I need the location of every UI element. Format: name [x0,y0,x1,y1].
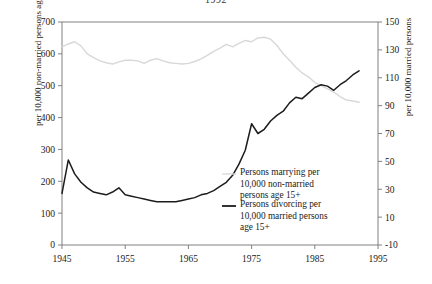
series-line-divorcing [62,71,359,202]
x-axis-tick-label: 1945 [53,254,72,264]
y-axis-right-tick-label: 130 [385,45,400,55]
legend-label-line: 10,000 married persons [240,211,328,221]
legend-label-line: Persons marrying per [240,167,320,177]
y-axis-left-tick-label: 0 [50,240,55,250]
y-axis-right-tick-label: 70 [385,129,395,139]
y-axis-right-tick-label: -10 [385,240,398,250]
y-axis-right-tick-label: 150 [385,17,400,27]
y-axis-left-tick-label: 300 [41,145,56,155]
chart-plot-svg: 0100200300400500600700-10103050709011013… [0,0,432,284]
chart-legend: Persons marrying per10,000 non-marriedpe… [222,167,328,232]
y-axis-right-tick-label: 30 [385,185,395,195]
y-axis-left-tick-label: 600 [41,49,56,59]
x-axis-tick-label: 1965 [179,254,198,264]
x-axis-tick-label: 1985 [305,254,324,264]
y-axis-left-tick-label: 100 [41,209,56,219]
axes-group [62,22,378,245]
y-axis-left-tick-label: 500 [41,81,56,91]
tick-labels-group: 0100200300400500600700-10103050709011013… [41,17,400,264]
y-axis-right-tick-label: 50 [385,157,395,167]
y-axis-left-tick-label: 200 [41,177,56,187]
x-axis-tick-label: 1975 [242,254,261,264]
legend-label-line: Persons divorcing per [240,199,322,209]
series-line-marrying [62,37,359,102]
x-axis-tick-label: 1995 [369,254,388,264]
tick-marks-group [58,22,382,249]
x-axis-tick-label: 1955 [116,254,135,264]
chart-container: 1992 per 10,000 non-married persons age … [0,0,432,284]
y-axis-right-tick-label: 10 [385,213,395,223]
y-axis-left-tick-label: 700 [41,17,56,27]
legend-label-line: 10,000 non-married [240,179,314,189]
legend-label-line: age 15+ [240,222,270,232]
y-axis-right-tick-label: 110 [385,73,399,83]
y-axis-left-tick-label: 400 [41,113,56,123]
y-axis-right-tick-label: 90 [385,101,395,111]
